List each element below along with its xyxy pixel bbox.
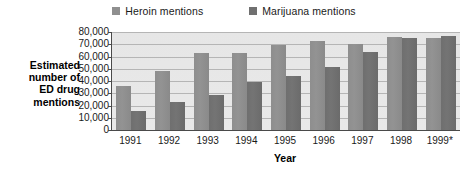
x-axis-tick-label: 1996: [304, 135, 343, 146]
x-axis-title: Year: [111, 152, 459, 164]
bar-groups: [112, 32, 460, 130]
legend-label-heroin: Heroin mentions: [125, 5, 203, 17]
y-axis-tickmark: [108, 130, 112, 131]
legend-swatch-marijuana-icon: [249, 7, 257, 15]
y-axis-tick-label: 70,000: [78, 39, 109, 49]
bar-group: [228, 32, 267, 130]
legend-label-marijuana: Marijuana mentions: [262, 5, 355, 17]
y-axis-tick-label: 10,000: [78, 113, 109, 123]
bar-group: [189, 32, 228, 130]
bar-group: [112, 32, 151, 130]
bar-marijuana: [131, 111, 146, 130]
y-axis-title-line-3: ED drug: [2, 83, 80, 95]
bar-heroin: [426, 38, 441, 130]
legend-item-marijuana: Marijuana mentions: [249, 5, 355, 17]
bar-marijuana: [325, 67, 340, 130]
bar-group: [383, 32, 422, 130]
y-axis-tick-label: 30,000: [78, 88, 109, 98]
bar-marijuana: [286, 76, 301, 130]
x-axis-tick-label: 1994: [227, 135, 266, 146]
bar-marijuana: [170, 102, 185, 130]
legend-item-heroin: Heroin mentions: [112, 5, 203, 17]
y-axis-tick-label: 60,000: [78, 52, 109, 62]
bar-heroin: [387, 37, 402, 130]
bar-heroin: [194, 53, 209, 130]
bar-marijuana: [247, 82, 262, 130]
bar-group: [267, 32, 306, 130]
x-axis-tick-label: 1995: [266, 135, 305, 146]
bar-heroin: [155, 71, 170, 130]
bar-group: [344, 32, 383, 130]
bar-group: [421, 32, 460, 130]
x-axis-tick-labels: 199119921993199419951996199719981999*: [111, 135, 459, 146]
plot-area: [111, 32, 460, 131]
y-axis-title-line-4: mentions: [2, 96, 80, 108]
bar-marijuana: [363, 52, 378, 130]
y-axis-tick-label: 40,000: [78, 76, 109, 86]
legend-swatch-heroin-icon: [112, 7, 120, 15]
y-axis-tick-label: 80,000: [78, 27, 109, 37]
bar-heroin: [348, 44, 363, 130]
x-axis-tick-label: 1991: [111, 135, 150, 146]
bar-heroin: [232, 53, 247, 130]
y-axis-tick-label: 20,000: [78, 101, 109, 111]
x-axis-tick-label: 1997: [343, 135, 382, 146]
bar-heroin: [310, 41, 325, 130]
bar-marijuana: [402, 38, 417, 130]
x-axis-tick-label: 1999*: [420, 135, 459, 146]
bar-marijuana: [441, 36, 456, 130]
chart-legend: Heroin mentions Marijuana mentions: [0, 3, 468, 19]
y-axis-tick-label: 50,000: [78, 64, 109, 74]
bar-marijuana: [209, 95, 224, 130]
x-axis-tick-label: 1993: [188, 135, 227, 146]
bar-group: [305, 32, 344, 130]
chart-figure: Heroin mentions Marijuana mentions Estim…: [0, 0, 468, 171]
x-axis-tick-label: 1998: [382, 135, 421, 146]
y-axis-title-line-1: Estimated: [2, 59, 80, 71]
y-axis-title: Estimated number of ED drug mentions: [2, 59, 80, 108]
x-axis-tick-label: 1992: [150, 135, 189, 146]
y-axis-title-line-2: number of: [2, 71, 80, 83]
y-axis-tick-labels: 010,00020,00030,00040,00050,00060,00070,…: [76, 27, 109, 137]
bar-group: [151, 32, 190, 130]
bar-heroin: [116, 86, 131, 130]
bar-heroin: [271, 45, 286, 130]
